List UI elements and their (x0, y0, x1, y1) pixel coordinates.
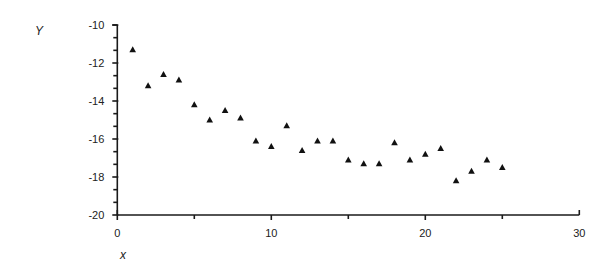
x-tick-label: 0 (114, 227, 120, 239)
data-point-marker (437, 145, 444, 151)
data-point-marker (145, 82, 152, 88)
data-point-marker (160, 71, 167, 77)
y-tick-label: -10 (88, 19, 104, 31)
data-point-marker (453, 177, 460, 183)
data-point-marker (176, 77, 183, 83)
data-point-marker (237, 115, 244, 121)
x-tick-label: 30 (573, 227, 585, 239)
data-point-marker (299, 147, 306, 153)
data-point-marker (422, 151, 429, 157)
data-point-marker (129, 46, 136, 52)
y-tick-label: -20 (88, 209, 104, 221)
x-tick-label: 10 (265, 227, 277, 239)
x-tick-label: 20 (419, 227, 431, 239)
x-axis-title: x (119, 248, 127, 262)
data-point-marker (253, 137, 260, 143)
data-point-marker (330, 137, 337, 143)
scatter-chart: -10-12-14-16-18-20 0102030 Y x (0, 0, 611, 273)
data-point-marker (191, 101, 198, 107)
data-point-marker (268, 143, 275, 149)
y-axis: -10-12-14-16-18-20 (88, 19, 118, 221)
data-point-marker (345, 156, 352, 162)
data-point-marker (314, 137, 321, 143)
data-point-marker (391, 139, 398, 145)
x-axis: 0102030 (114, 210, 585, 239)
y-tick-label: -12 (88, 57, 104, 69)
y-tick-label: -16 (88, 133, 104, 145)
data-point-marker (484, 156, 491, 162)
data-point-marker (376, 160, 383, 166)
data-point-marker (499, 164, 506, 170)
data-point-marker (206, 117, 213, 123)
data-point-marker (407, 156, 414, 162)
data-point-marker (283, 122, 290, 128)
y-tick-label: -14 (88, 95, 104, 107)
data-point-marker (468, 168, 475, 174)
y-tick-label: -18 (88, 171, 104, 183)
data-point-marker (360, 160, 367, 166)
data-point-marker (222, 107, 229, 113)
y-axis-title: Y (35, 24, 44, 38)
data-points (129, 46, 505, 183)
